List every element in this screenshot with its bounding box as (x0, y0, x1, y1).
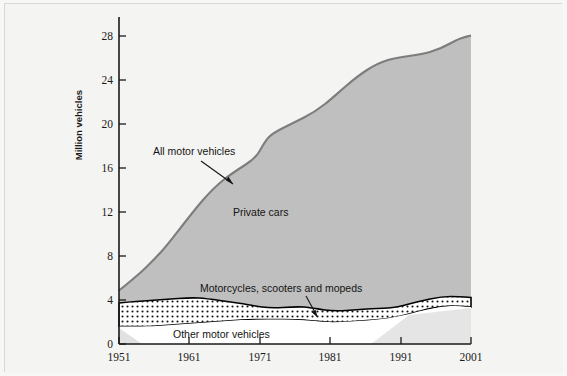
x-tick-label-1971: 1971 (249, 351, 272, 363)
y-tick-label-24: 24 (102, 74, 114, 86)
chart-frame: 0 4 8 12 16 20 24 28 1951 1961 1971 1981… (4, 3, 562, 372)
motor-vehicles-area-chart: 0 4 8 12 16 20 24 28 1951 1961 1971 1981… (5, 4, 563, 373)
chart-page: 0 4 8 12 16 20 24 28 1951 1961 1971 1981… (0, 0, 567, 376)
x-tick-label-1991: 1991 (390, 351, 413, 363)
annotation-other-motor-vehicles-label: Other motor vehicles (173, 328, 270, 340)
y-tick-label-12: 12 (102, 206, 114, 218)
x-tick-label-1961: 1961 (178, 351, 201, 363)
y-tick-label-4: 4 (107, 294, 113, 306)
y-tick-label-16: 16 (102, 162, 114, 174)
y-tick-label-28: 28 (102, 30, 114, 42)
x-tick-label-1951: 1951 (108, 351, 131, 363)
annotation-all-motor-vehicles-label: All motor vehicles (153, 145, 235, 157)
y-tick-label-20: 20 (102, 118, 114, 130)
y-tick-label-8: 8 (107, 250, 113, 262)
y-axis-title: Million vehicles (73, 90, 84, 160)
annotation-motorcycles-label: Motorcycles, scooters and mopeds (200, 282, 362, 294)
x-tick-label-2001: 2001 (460, 351, 483, 363)
y-tick-label-0: 0 (107, 338, 113, 350)
x-tick-label-1981: 1981 (319, 351, 342, 363)
annotation-private-cars-label: Private cars (233, 206, 288, 218)
